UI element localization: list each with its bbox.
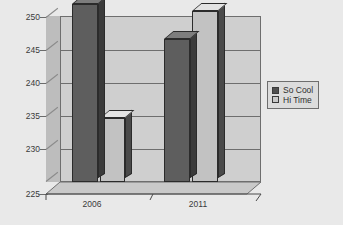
legend-label: Hi Time (283, 96, 312, 105)
legend-item-hi-time: Hi Time (272, 96, 313, 105)
bar-so-cool-2006 (72, 4, 98, 182)
bar-front (164, 39, 190, 182)
bar-so-cool-2011 (164, 39, 190, 182)
bar-side (125, 110, 132, 178)
x-tick-label-2006: 2006 (72, 199, 112, 209)
bar-side (190, 31, 197, 178)
legend-item-so-cool: So Cool (272, 86, 313, 95)
bar-side (98, 0, 105, 178)
bar-front (72, 4, 98, 182)
bar-chart: 250 245 240 235 230 225 (0, 0, 343, 225)
legend: So Cool Hi Time (267, 81, 319, 109)
legend-swatch-icon (272, 96, 279, 103)
legend-swatch-icon (272, 87, 279, 94)
legend-label: So Cool (283, 86, 313, 95)
x-tick-label-2011: 2011 (178, 199, 218, 209)
bar-side (218, 3, 225, 178)
